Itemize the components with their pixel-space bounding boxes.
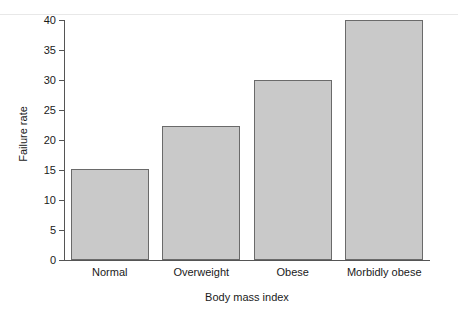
y-axis-tick	[59, 230, 64, 231]
y-axis-title: Failure rate	[17, 89, 29, 179]
y-axis-tick-label: 40	[20, 15, 56, 26]
y-axis-tick-label: 0	[20, 255, 56, 266]
y-axis-tick-label: 5	[20, 225, 56, 236]
y-axis-tick	[59, 80, 64, 81]
x-axis-title: Body mass index	[64, 291, 430, 303]
bar	[162, 126, 240, 260]
y-axis-tick	[59, 20, 64, 21]
y-axis-tick	[59, 200, 64, 201]
bar-chart-figure: 0510152025303540 Failure rate NormalOver…	[0, 0, 458, 315]
y-axis-tick	[59, 260, 64, 261]
bar	[254, 80, 332, 260]
bar	[71, 169, 149, 260]
y-axis-tick	[59, 170, 64, 171]
y-axis-tick	[59, 140, 64, 141]
y-axis-tick	[59, 50, 64, 51]
y-axis-tick	[59, 110, 64, 111]
y-axis-tick-label: 30	[20, 75, 56, 86]
plot-area: 0510152025303540 Failure rate NormalOver…	[0, 0, 458, 315]
x-axis-tick-label: Morbidly obese	[314, 266, 454, 279]
y-axis-tick-label: 35	[20, 45, 56, 56]
y-axis-line	[64, 20, 65, 261]
bar	[345, 20, 423, 260]
x-axis-line	[64, 260, 430, 261]
y-axis-tick-label: 10	[20, 195, 56, 206]
